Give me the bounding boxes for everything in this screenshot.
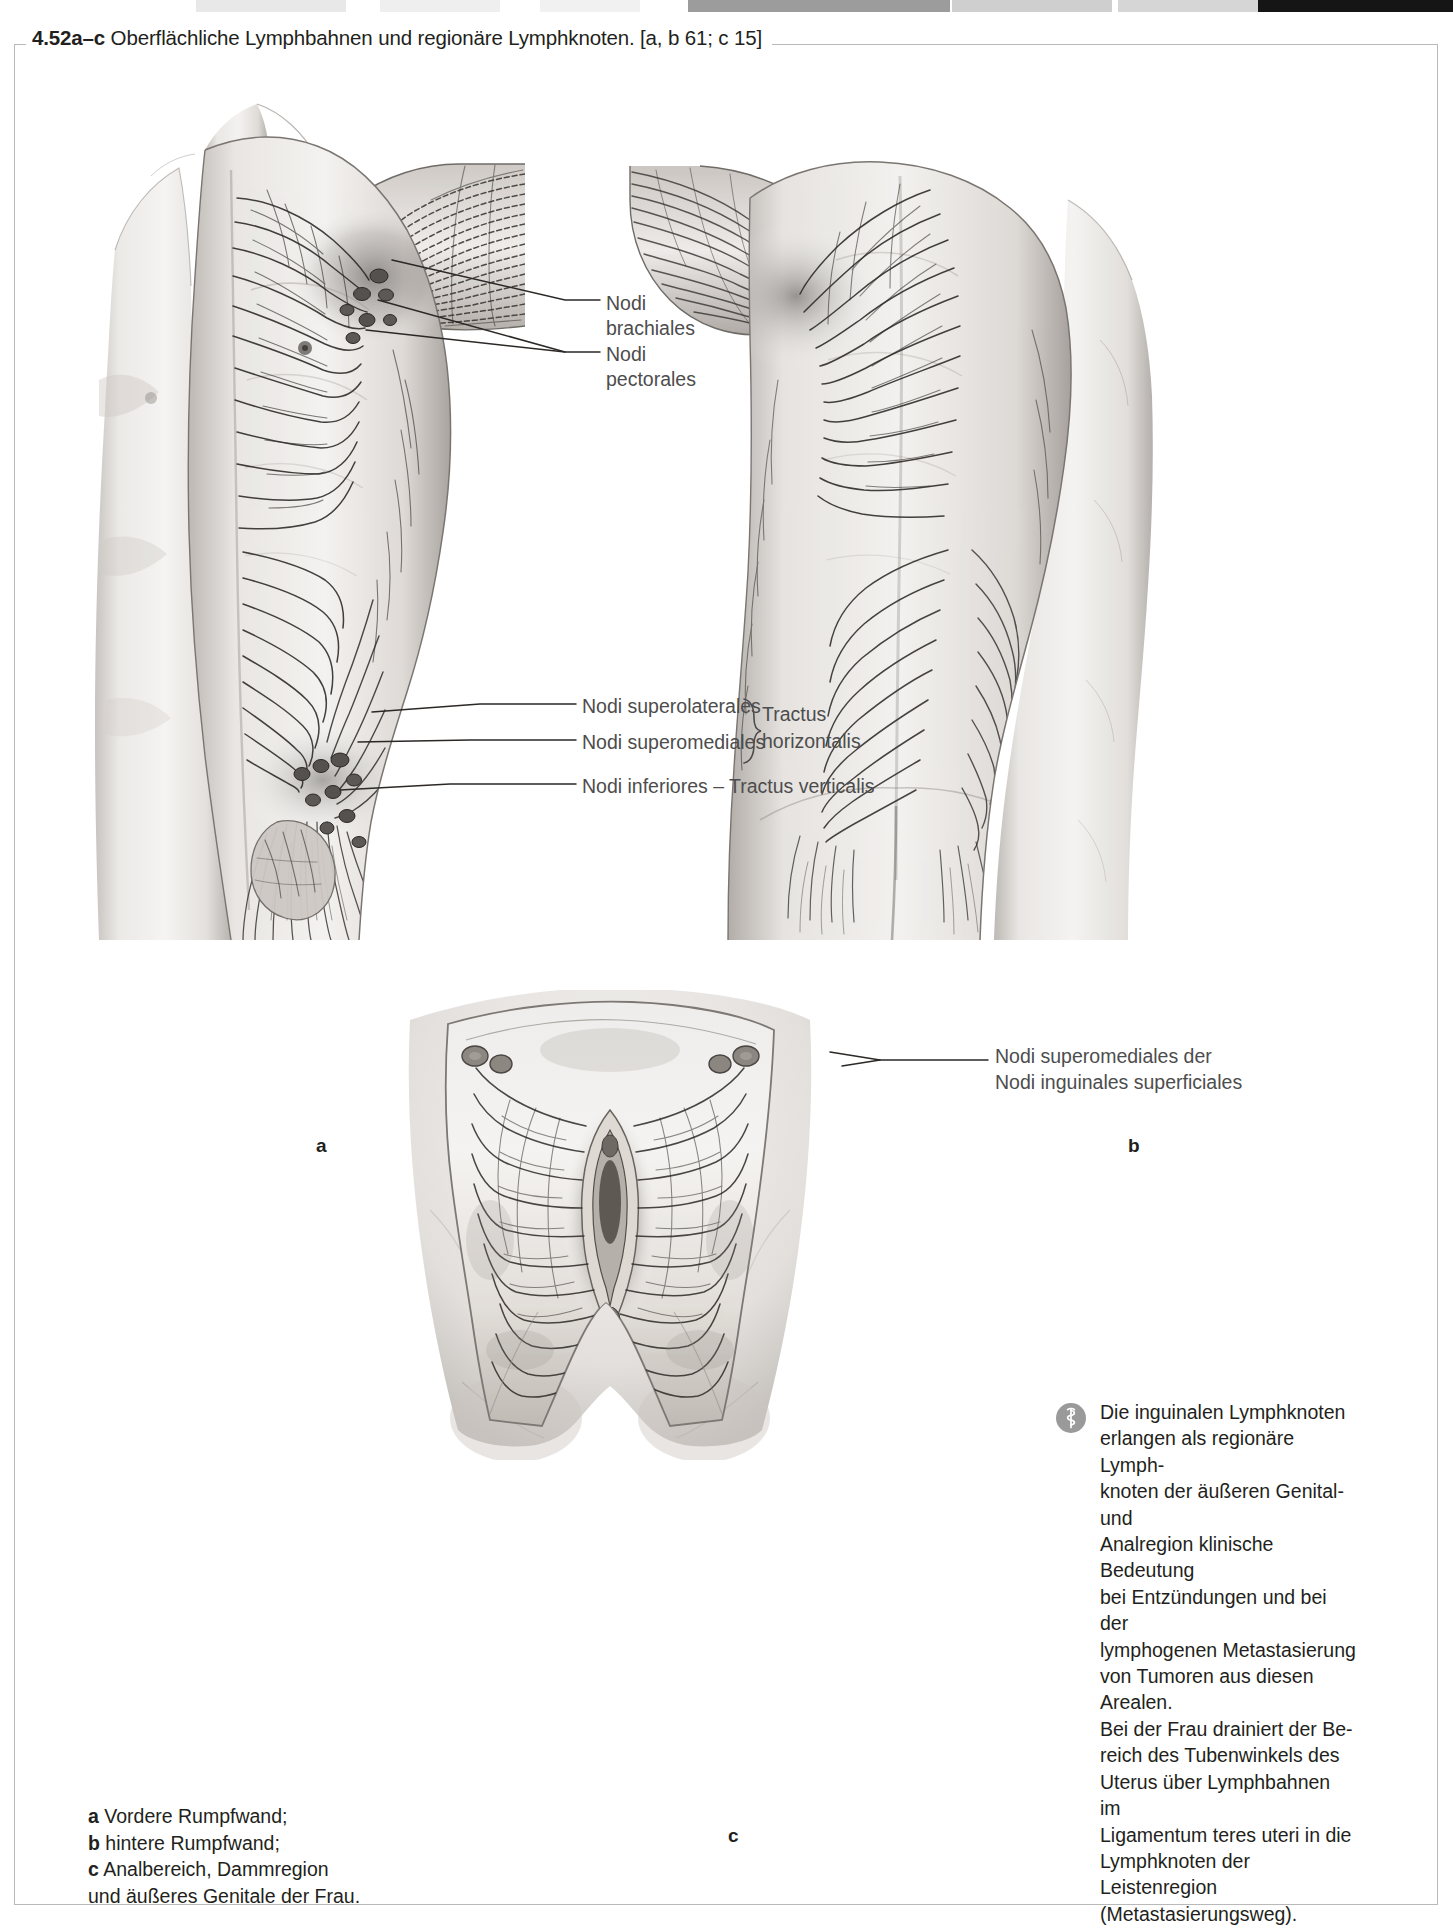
top-band-block [380, 0, 500, 12]
figure-letter-c: c [728, 1825, 739, 1847]
caption-text-c: Analbereich, Dammregion [103, 1858, 328, 1880]
figure-number: 4.52a–c [32, 26, 105, 49]
clinical-note-line: Analregion klinische Bedeutung [1100, 1531, 1356, 1584]
label-tractus-horizontalis: Tractus horizontalis [762, 701, 902, 755]
page-top-band [0, 0, 1453, 14]
label-panel-c-nodes-line2: Nodi inguinales superficiales [995, 1069, 1325, 1095]
clinical-note-line: Uterus über Lymphbahnen im [1100, 1769, 1356, 1822]
clinical-note-line: Ligamentum teres uteri in die [1100, 1822, 1356, 1848]
top-band-block [540, 0, 640, 12]
label-nodi-pectorales-line2: pectorales [606, 367, 696, 392]
label-nodi-superomediales: Nodi superomediales [582, 730, 765, 755]
label-nodi-superolaterales: Nodi superolaterales [582, 694, 761, 719]
clinical-note-line: Bei der Frau drainiert der Be- [1100, 1716, 1356, 1742]
figure-caption-line-b: b hintere Rumpfwand; [88, 1830, 360, 1857]
leader-panel-c-nodes-2 [842, 1060, 880, 1066]
top-band-block [1258, 0, 1453, 12]
label-nodi-brachiales-line1: Nodi [606, 291, 695, 316]
caption-key-b: b [88, 1832, 100, 1854]
label-tractus-horizontalis-line1: Tractus [762, 701, 902, 728]
figure-source-refs: [a, b 61; c 15] [640, 26, 762, 49]
clinical-note-line: reich des Tubenwinkels des [1100, 1742, 1356, 1768]
clinical-note-line: von Tumoren aus diesen Arealen. [1100, 1663, 1356, 1716]
label-nodi-pectorales-line1: Nodi [606, 342, 696, 367]
label-panel-c-nodes-line1: Nodi superomediales der [995, 1043, 1325, 1069]
caption-text-b: hintere Rumpfwand; [105, 1832, 280, 1854]
clinical-note: Die inguinalen Lymphknoten erlangen als … [1056, 1399, 1356, 1927]
caption-key-c: c [88, 1858, 99, 1880]
figure-panel-c-perineum [370, 990, 840, 1460]
clinical-note-line: bei Entzündungen und bei der [1100, 1584, 1356, 1637]
label-nodi-pectorales: Nodi pectorales [606, 342, 696, 392]
clinical-caduceus-icon [1056, 1403, 1086, 1433]
figure-caption-line-c-cont: und äußeres Genitale der Frau. [88, 1883, 360, 1910]
figure-caption: a Vordere Rumpfwand; b hintere Rumpfwand… [88, 1803, 360, 1909]
leader-panel-c-nodes-1 [830, 1052, 988, 1060]
label-panel-c-nodi-superomediales: Nodi superomediales der Nodi inguinales … [995, 1043, 1325, 1095]
clinical-note-line: lymphogenen Metastasierung [1100, 1637, 1356, 1663]
figure-title: 4.52a–c Oberflächliche Lymphbahnen und r… [32, 26, 762, 50]
top-band-block [952, 0, 1112, 12]
caption-text-a: Vordere Rumpfwand; [104, 1805, 287, 1827]
clinical-note-line: Die inguinalen Lymphknoten [1100, 1399, 1356, 1425]
panel-a-torso [188, 137, 459, 940]
label-nodi-inferiores-tractus-verticalis: Nodi inferiores – Tractus verticalis [582, 774, 875, 799]
figure-letter-a: a [316, 1135, 327, 1157]
top-band-block [688, 0, 950, 12]
label-nodi-brachiales: Nodi brachiales [606, 291, 695, 341]
clinical-note-line: erlangen als regionäre Lymph- [1100, 1425, 1356, 1478]
top-band-block [196, 0, 346, 12]
clinical-note-text: Die inguinalen Lymphknoten erlangen als … [1100, 1399, 1356, 1927]
clinical-note-line: (Metastasierungsweg). [1100, 1901, 1356, 1927]
clinical-note-line: Lymphknoten der Leistenregion [1100, 1848, 1356, 1901]
caption-key-a: a [88, 1805, 99, 1827]
figure-caption-line-a: a Vordere Rumpfwand; [88, 1803, 360, 1830]
clinical-note-line: knoten der äußeren Genital- und [1100, 1478, 1356, 1531]
figure-letter-b: b [1128, 1135, 1140, 1157]
figure-panel-a-anterior-trunk [55, 80, 525, 940]
label-tractus-horizontalis-line2: horizontalis [762, 728, 902, 755]
label-nodi-brachiales-line2: brachiales [606, 316, 695, 341]
figure-caption-line-c: c Analbereich, Dammregion [88, 1856, 360, 1883]
figure-panel-b-posterior-trunk [600, 80, 1160, 940]
figure-title-text: Oberflächliche Lymphbahnen und regionäre… [111, 26, 635, 49]
